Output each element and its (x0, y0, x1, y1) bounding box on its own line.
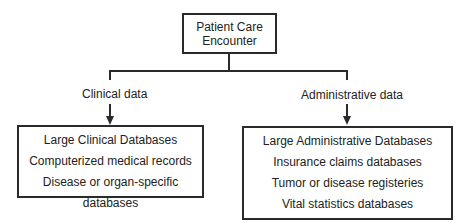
root-node-patient-care-encounter: Patient Care Encounter (182, 13, 277, 54)
right-arrow-head-icon (343, 116, 351, 125)
branch-label-administrative: Administrative data (301, 88, 403, 102)
horizontal-connector (109, 70, 348, 72)
administrative-box-title: Large Administrative Databases (244, 131, 451, 152)
administrative-box-item: Insurance claims databases (244, 152, 451, 173)
root-stem (228, 53, 230, 71)
left-arrow-head-icon (106, 116, 114, 125)
clinical-databases-box: Large Clinical Databases Computerized me… (17, 125, 204, 198)
right-branch-line (346, 70, 348, 80)
clinical-box-item: Disease or organ-specific databases (19, 172, 202, 214)
administrative-databases-box: Large Administrative Databases Insurance… (242, 126, 453, 220)
administrative-box-item: Tumor or disease registeries (244, 173, 451, 194)
root-label-line1: Patient Care (184, 20, 275, 34)
administrative-box-item: Vital statistics databases (244, 194, 451, 215)
left-branch-line (109, 70, 111, 80)
clinical-box-title: Large Clinical Databases (19, 130, 202, 151)
clinical-box-item: Computerized medical records (19, 151, 202, 172)
branch-label-clinical: Clinical data (82, 87, 147, 101)
root-label-line2: Encounter (184, 34, 275, 48)
